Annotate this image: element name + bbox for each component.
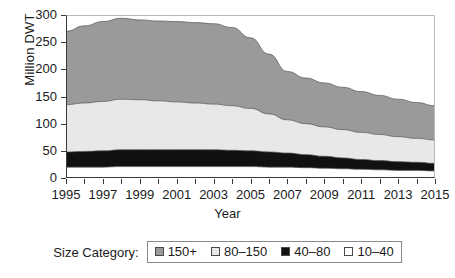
x-tick-label: 2003: [194, 187, 234, 202]
x-tick-mark: [103, 179, 104, 184]
x-tick-mark: [417, 179, 418, 184]
y-tick-label: 100: [0, 117, 57, 130]
x-tick-mark: [121, 179, 122, 184]
x-tick-label: 1997: [83, 187, 123, 202]
x-tick-mark: [66, 179, 67, 184]
plot-frame: [66, 15, 435, 178]
x-tick-label: 2001: [157, 187, 197, 202]
y-tick-label: 250: [0, 35, 57, 48]
x-tick-label: 2015: [415, 187, 455, 202]
chart-figure: Million DWT 050100150200250300 199519971…: [0, 0, 455, 278]
x-tick-mark: [158, 179, 159, 184]
x-tick-mark: [287, 179, 288, 184]
x-tick-mark: [251, 179, 252, 184]
x-tick-label: 1999: [120, 187, 160, 202]
x-tick-mark: [269, 179, 270, 184]
x-tick-mark: [435, 179, 436, 184]
legend-item-label: 150+: [168, 245, 197, 258]
x-tick-mark: [343, 179, 344, 184]
legend-box: 150+80–15040–8010–40: [147, 241, 402, 263]
y-tick-label: 300: [0, 8, 57, 21]
x-tick-mark: [195, 179, 196, 184]
legend-swatch-icon: [211, 247, 220, 256]
x-tick-mark: [177, 179, 178, 184]
legend-item[interactable]: 80–150: [211, 245, 267, 258]
x-tick-mark: [324, 179, 325, 184]
y-tick-label: 200: [0, 62, 57, 75]
legend-swatch-icon: [344, 247, 353, 256]
x-tick-mark: [398, 179, 399, 184]
x-axis-title: Year: [0, 206, 455, 221]
x-tick-mark: [84, 179, 85, 184]
x-tick-label: 2009: [304, 187, 344, 202]
legend-item-label: 40–80: [294, 245, 330, 258]
legend-swatch-icon: [281, 247, 290, 256]
legend-item-label: 80–150: [224, 245, 267, 258]
plot-area: [66, 15, 435, 178]
legend-swatch-icon: [155, 247, 164, 256]
x-tick-label: 2007: [267, 187, 307, 202]
x-tick-mark: [380, 179, 381, 184]
x-tick-mark: [306, 179, 307, 184]
x-tick-label: 2013: [378, 187, 418, 202]
x-tick-mark: [361, 179, 362, 184]
legend: Size Category: 150+80–15040–8010–40: [0, 241, 455, 263]
x-tick-label: 2011: [341, 187, 381, 202]
legend-title: Size Category:: [53, 245, 138, 260]
x-tick-mark: [140, 179, 141, 184]
y-tick-label: 150: [0, 90, 57, 103]
x-tick-label: 2005: [231, 187, 271, 202]
x-tick-mark: [214, 179, 215, 184]
y-tick-label: 50: [0, 144, 57, 157]
legend-item-label: 10–40: [357, 245, 393, 258]
legend-item[interactable]: 10–40: [344, 245, 393, 258]
legend-item[interactable]: 40–80: [281, 245, 330, 258]
x-tick-mark: [232, 179, 233, 184]
x-tick-label: 1995: [46, 187, 86, 202]
legend-item[interactable]: 150+: [155, 245, 197, 258]
y-tick-label: 0: [0, 171, 57, 184]
